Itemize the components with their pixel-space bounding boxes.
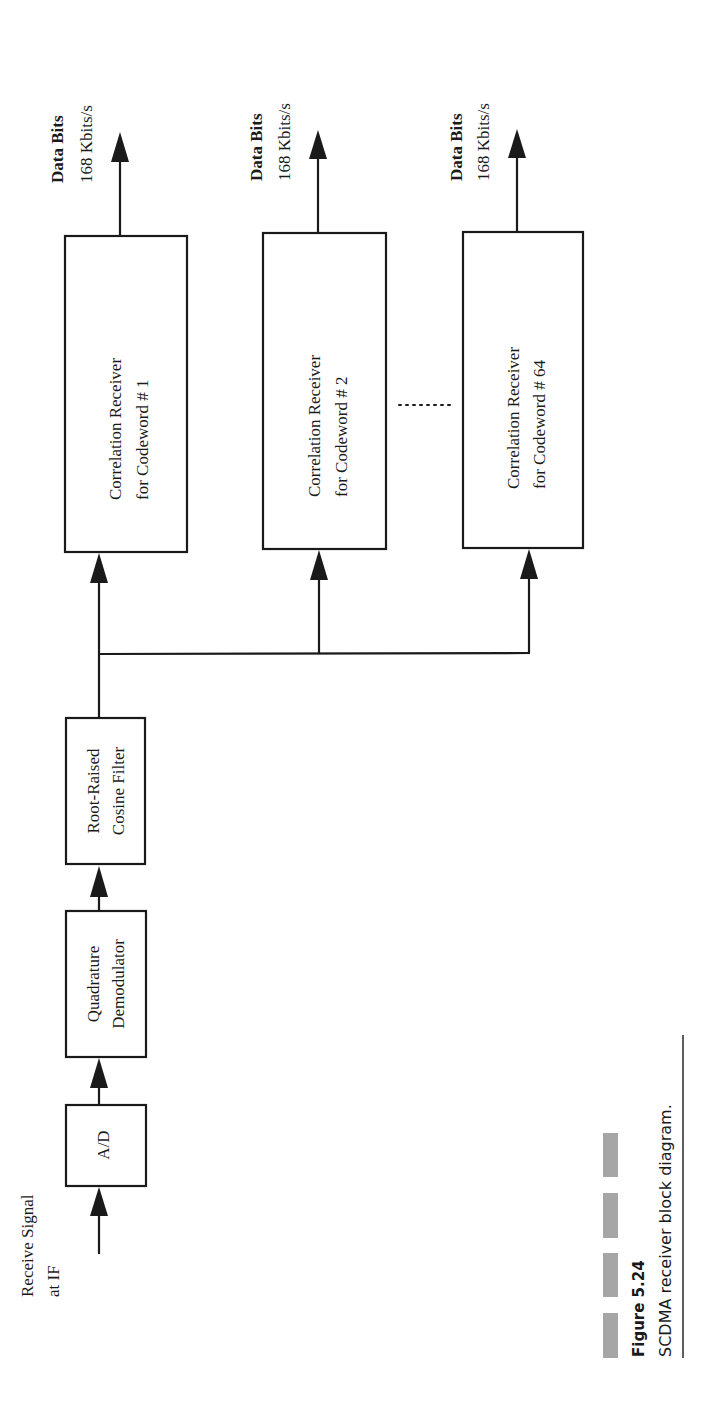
correlation-receiver-64-block: Correlation Receiver for Codeword # 64 xyxy=(463,232,583,548)
distribution-bus xyxy=(90,549,538,718)
caption-decor-block xyxy=(603,1253,618,1297)
figure-caption: Figure 5.24 SCDMA receiver block diagram… xyxy=(603,1035,683,1358)
ad-converter-label: A/D xyxy=(94,1130,113,1159)
quadrature-demodulator-label-line2: Demodulator xyxy=(109,939,128,1029)
correlation-receiver-1-block: Correlation Receiver for Codeword # 1 xyxy=(65,236,187,552)
correlation-receiver-2-label-line2: for Codeword # 2 xyxy=(332,377,351,497)
output-64-label-line2: 168 Kbits/s xyxy=(474,103,493,181)
arrowhead-icon xyxy=(309,130,327,159)
figure-number: Figure 5.24 xyxy=(630,1260,648,1357)
scdma-receiver-block-diagram: Receive Signal at IF A/D Quadrature Demo… xyxy=(0,0,713,1410)
output-2-label-line2: 168 Kbits/s xyxy=(275,103,294,181)
correlation-receiver-2-block: Correlation Receiver for Codeword # 2 xyxy=(263,233,386,549)
output-arrow-64 xyxy=(508,129,526,232)
output-arrow-1 xyxy=(111,132,129,236)
arrowhead-icon xyxy=(508,129,526,158)
arrowhead-icon xyxy=(90,866,108,897)
figure-caption-text: SCDMA receiver block diagram. xyxy=(656,1104,675,1357)
arrow-demod-to-filter xyxy=(90,866,108,911)
arrowhead-icon xyxy=(111,132,129,162)
arrowhead-icon xyxy=(90,1187,108,1216)
quadrature-demodulator-label-line1: Quadrature xyxy=(84,946,103,1022)
correlation-receiver-2-label-line1: Correlation Receiver xyxy=(305,355,324,497)
caption-decor-block xyxy=(603,1313,618,1358)
output-label-2: Data Bits 168 Kbits/s xyxy=(247,103,294,181)
arrow-ad-to-demod xyxy=(90,1058,108,1105)
output-label-1: Data Bits 168 Kbits/s xyxy=(48,105,96,183)
output-arrow-2 xyxy=(309,130,327,233)
correlation-receiver-1-label-line2: for Codeword # 1 xyxy=(133,380,152,500)
input-label-line2: at IF xyxy=(44,1265,63,1297)
output-1-label-line1: Data Bits xyxy=(48,115,67,183)
output-64-label-line1: Data Bits xyxy=(447,113,466,181)
arrowhead-icon xyxy=(90,1058,108,1088)
root-raised-cosine-filter-block: Root-Raised Cosine Filter xyxy=(66,718,145,864)
arrowhead-icon xyxy=(90,553,108,583)
input-label: Receive Signal at IF xyxy=(18,1194,63,1297)
caption-decor-block xyxy=(603,1133,618,1177)
caption-decor-block xyxy=(603,1193,618,1238)
bus-horizontal-wire xyxy=(99,653,530,654)
quadrature-demodulator-block: Quadrature Demodulator xyxy=(66,911,146,1057)
output-2-label-line1: Data Bits xyxy=(247,113,266,181)
input-label-line1: Receive Signal xyxy=(18,1194,37,1297)
arrowhead-icon xyxy=(310,550,328,580)
rrc-filter-label-line1: Root-Raised xyxy=(84,748,103,833)
input-arrow xyxy=(90,1187,108,1254)
rrc-filter-label-line2: Cosine Filter xyxy=(109,747,128,836)
correlation-receiver-64-label-line1: Correlation Receiver xyxy=(504,347,523,489)
arrowhead-icon xyxy=(520,549,538,579)
correlation-receiver-1-label-line1: Correlation Receiver xyxy=(106,358,125,500)
output-label-64: Data Bits 168 Kbits/s xyxy=(447,103,493,181)
ad-converter-block: A/D xyxy=(66,1105,146,1186)
correlation-receiver-64-label-line2: for Codeword # 64 xyxy=(530,360,549,489)
output-1-label-line2: 168 Kbits/s xyxy=(77,105,96,183)
